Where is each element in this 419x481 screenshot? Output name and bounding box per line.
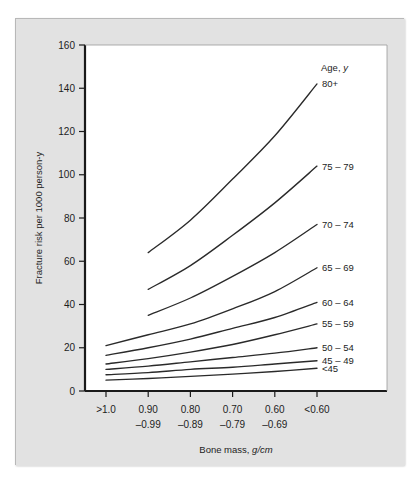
legend-title: Age, y bbox=[321, 62, 349, 73]
x-tick-label-secondary: –0.89 bbox=[178, 419, 203, 430]
x-tick-label-primary: 0.60 bbox=[265, 404, 285, 415]
series-label-<45: <45 bbox=[322, 363, 338, 374]
series-label-75-79: 75 – 79 bbox=[322, 161, 354, 172]
x-tick-label-secondary: –0.69 bbox=[262, 419, 287, 430]
x-tick-label-primary: >1.0 bbox=[96, 404, 116, 415]
series-label-70-74: 70 – 74 bbox=[322, 219, 354, 230]
y-tick-label: 120 bbox=[58, 126, 75, 137]
x-tick-label-primary: 0.90 bbox=[138, 404, 158, 415]
series-label-65-69: 65 – 69 bbox=[322, 262, 354, 273]
y-tick-label: 100 bbox=[58, 169, 75, 180]
series-label-50-54: 50 – 54 bbox=[322, 342, 354, 353]
y-tick-label: 160 bbox=[58, 40, 75, 51]
x-tick-label-primary: 0.70 bbox=[223, 404, 243, 415]
y-axis-title: Fracture risk per 1000 person-y bbox=[33, 151, 44, 284]
series-label-80+: 80+ bbox=[322, 78, 339, 89]
figure-panel: 020406080100120140160 >1.00.90–0.990.80–… bbox=[15, 18, 404, 465]
series-label-55-59: 55 – 59 bbox=[322, 318, 354, 329]
x-tick-label-primary: 0.80 bbox=[181, 404, 201, 415]
x-tick-label-secondary: –0.79 bbox=[220, 419, 245, 430]
x-tick-label-primary: <0.60 bbox=[304, 404, 330, 415]
y-tick-label: 60 bbox=[64, 256, 76, 267]
series-label-60-64: 60 – 64 bbox=[322, 297, 354, 308]
x-axis-title: Bone mass, g/cm bbox=[199, 444, 272, 455]
y-tick-label: 40 bbox=[64, 299, 76, 310]
fracture-risk-line-chart: 020406080100120140160 >1.00.90–0.990.80–… bbox=[16, 19, 405, 466]
y-tick-label: 140 bbox=[58, 83, 75, 94]
y-tick-label: 20 bbox=[64, 342, 76, 353]
x-tick-label-secondary: –0.99 bbox=[136, 419, 161, 430]
y-tick-label: 80 bbox=[64, 213, 76, 224]
y-tick-label: 0 bbox=[69, 386, 75, 397]
